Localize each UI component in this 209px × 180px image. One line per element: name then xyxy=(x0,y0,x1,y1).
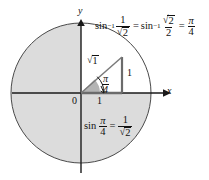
angle-fraction: π 4 xyxy=(102,74,109,95)
result-numerator: π xyxy=(188,16,195,27)
first-fraction-denominator: √2 xyxy=(116,26,130,39)
sine-equation-bottom: sin π 4 = 1 √2 xyxy=(84,115,133,138)
y-axis-arrowhead xyxy=(77,19,85,26)
sine-equation-bottom-row: sin π 4 = 1 √2 xyxy=(84,115,133,138)
radical-icon: √ xyxy=(119,126,125,138)
sine-value-fraction: 1 √2 xyxy=(118,115,132,138)
sine-value-denominator: √2 xyxy=(118,126,132,139)
radical-icon: √ xyxy=(117,26,123,38)
first-fraction: 1 √2 xyxy=(116,15,130,38)
angle-label: π 4 xyxy=(101,74,110,95)
equals-sign-1: = xyxy=(131,21,141,32)
result-fraction: π 4 xyxy=(188,16,195,38)
result-denominator: 4 xyxy=(188,26,195,38)
x-axis-label: x xyxy=(167,86,171,96)
arcsine-equation-top: sin−1 1 √2 =sin−1 √2 2 = π 4 xyxy=(95,15,196,38)
second-fraction-denominator: 2 xyxy=(165,27,172,39)
y-axis-label: y xyxy=(78,6,82,16)
first-denominator-sqrt: √2 xyxy=(117,27,129,39)
equals-sign-3: = xyxy=(108,121,118,132)
sine-angle-numerator: π xyxy=(99,116,106,127)
second-fraction: √2 2 xyxy=(162,15,176,38)
sine-value-denominator-sqrt: √2 xyxy=(119,127,131,139)
second-fraction-numerator: √2 xyxy=(162,15,176,27)
arcsine-equation-top-row: sin−1 1 √2 =sin−1 √2 2 = π 4 xyxy=(95,15,196,38)
radical-icon: √ xyxy=(87,55,93,67)
arcsin-function-1: sin xyxy=(95,21,107,32)
sine-angle-fraction: π 4 xyxy=(99,116,106,138)
radical-icon: √ xyxy=(163,15,169,27)
sin-function: sin xyxy=(84,121,96,132)
angle-denominator: 4 xyxy=(102,84,109,95)
arcsin-function-2: sin xyxy=(141,21,153,32)
horizontal-leg-label: 1 xyxy=(97,96,102,106)
unit-circle-arcsine-figure: y x 0 1 1 √1 π 4 sin−1 1 √2 =sin−1 √2 2 … xyxy=(0,0,209,180)
vertical-leg-label: 1 xyxy=(127,68,132,78)
angle-numerator: π xyxy=(102,74,109,84)
sine-value-numerator: 1 xyxy=(122,115,129,126)
sine-angle-denominator: 4 xyxy=(99,126,106,138)
arcsin-exponent-1: −1 xyxy=(107,23,115,30)
arcsin-exponent-2: −1 xyxy=(153,23,161,30)
origin-label: 0 xyxy=(72,96,77,106)
hypotenuse-label: √1 xyxy=(87,55,99,66)
first-fraction-numerator: 1 xyxy=(119,15,126,26)
sqrt-symbol-group: √1 xyxy=(87,55,99,66)
second-numerator-sqrt: √2 xyxy=(163,15,175,27)
equals-sign-2: = xyxy=(177,21,187,32)
